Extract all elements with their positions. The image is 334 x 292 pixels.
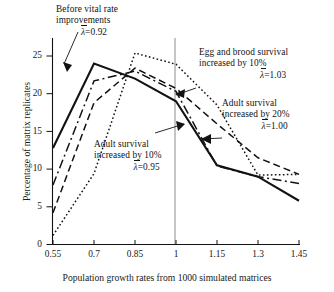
arrowhead-egg: [175, 89, 185, 98]
y-tick-label-0: 0: [22, 239, 42, 249]
annotation-egg-lambda-value: =1.03: [264, 70, 286, 80]
x-tick-label-5: 1.3: [241, 249, 275, 259]
annotation-before-line2: improvements: [56, 15, 110, 25]
annotation-before-vital-rate: Before vital rate improvements λ=0.92: [56, 4, 118, 38]
arrowhead-before: [63, 62, 72, 72]
annotation-adult-survival-20: Adult survival increased by 20% λ=1.00: [222, 98, 290, 132]
annotation-adult20-lambda: λ=1.00: [222, 121, 290, 132]
x-axis-title: Population growth rates from 1000 simula…: [0, 272, 334, 283]
lambda-symbol: λ: [81, 27, 85, 37]
annotation-adult10-lambda-value: =0.95: [138, 162, 160, 172]
figure-container: 0 5 10 15 20 25 0.55 0.7 0.85 1 1.15 1.3…: [0, 0, 334, 292]
x-tick-label-2: 0.85: [118, 249, 152, 259]
annotation-adult10-line1: Adult survival: [94, 139, 149, 149]
annotation-egg-line1: Egg and brood survival: [199, 47, 288, 57]
annotation-adult20-lambda-value: =1.00: [266, 121, 288, 131]
annotation-egg-lambda: λ=1.03: [199, 70, 288, 81]
x-axis-ticks: [53, 240, 299, 245]
annotation-adult20-line1: Adult survival: [222, 98, 277, 108]
lambda-symbol: λ: [262, 121, 266, 131]
annotation-egg-line2: increased by 10%: [199, 58, 267, 68]
x-tick-label-3: 1: [159, 249, 193, 259]
annotation-before-lambda: λ=0.92: [56, 27, 118, 38]
annotation-adult20-line2: increased by 20%: [222, 109, 290, 119]
annotation-adult10-lambda: λ=0.95: [94, 162, 162, 173]
annotation-before-lambda-value: =0.92: [85, 27, 107, 37]
x-tick-label-6: 1.45: [282, 249, 316, 259]
y-axis-ticks: [47, 56, 53, 245]
annotation-egg-brood-survival: Egg and brood survival increased by 10% …: [199, 47, 288, 81]
annotation-before-line1: Before vital rate: [56, 4, 118, 14]
lambda-symbol: λ: [260, 70, 264, 80]
x-tick-label-0: 0.55: [36, 249, 70, 259]
y-axis-title: Percentage of matrix replicates: [21, 57, 32, 227]
lambda-symbol: λ: [134, 162, 138, 172]
annotation-arrowheads: [63, 62, 211, 144]
series-line-2: [53, 68, 299, 213]
x-tick-label-1: 0.7: [77, 249, 111, 259]
x-tick-label-4: 1.15: [200, 249, 234, 259]
annotation-adult-survival-10: Adult survival increased by 10% λ=0.95: [94, 139, 162, 173]
annotation-adult10-line2: increased by 10%: [94, 150, 162, 160]
arrowhead-adult10: [176, 121, 185, 131]
